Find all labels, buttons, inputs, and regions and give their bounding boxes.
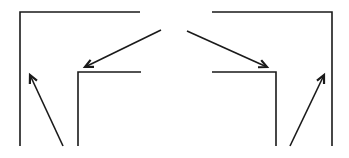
- corner-shapes: [20, 12, 332, 146]
- left-diagonal-arrow: [85, 30, 161, 67]
- corner-arrows-diagram: [0, 0, 349, 158]
- left-bottom-arrow: [30, 75, 63, 146]
- right-outer-corner: [212, 12, 332, 146]
- right-bottom-arrow: [290, 75, 324, 146]
- left-inner-corner: [78, 72, 141, 146]
- arrows: [30, 30, 324, 146]
- right-inner-corner: [212, 72, 276, 146]
- left-outer-corner: [20, 12, 140, 146]
- right-diagonal-arrow: [187, 31, 267, 67]
